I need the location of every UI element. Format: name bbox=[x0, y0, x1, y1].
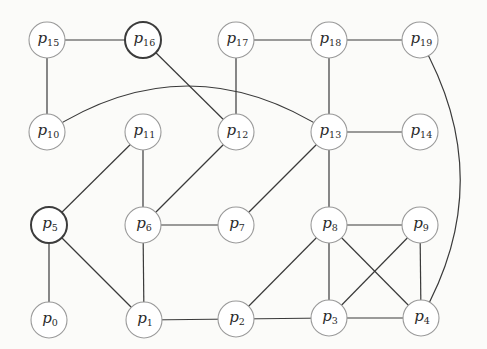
node-p7: p7 bbox=[218, 207, 254, 243]
node-p1: p1 bbox=[126, 302, 162, 338]
node-p19: p19 bbox=[402, 22, 438, 58]
node-p15: p15 bbox=[29, 22, 65, 58]
node-p4: p4 bbox=[403, 300, 439, 336]
node-p12: p12 bbox=[218, 114, 254, 150]
node-p14: p14 bbox=[402, 114, 438, 150]
edge-p12-p6 bbox=[143, 132, 236, 225]
edge-p19-p4 bbox=[420, 40, 460, 318]
node-p18: p18 bbox=[311, 22, 347, 58]
nodes-layer: p0p1p2p3p4p5p6p7p8p9p10p11p12p13p14p15p1… bbox=[29, 22, 439, 338]
node-p8: p8 bbox=[311, 207, 347, 243]
node-p9: p9 bbox=[402, 207, 438, 243]
node-p17: p17 bbox=[218, 22, 254, 58]
node-p13: p13 bbox=[311, 114, 347, 150]
node-p5: p5 bbox=[31, 207, 67, 243]
node-p16: p16 bbox=[125, 22, 161, 58]
edge-p5-p1 bbox=[49, 225, 144, 320]
edge-p10-p13 bbox=[47, 86, 329, 132]
node-p3: p3 bbox=[311, 300, 347, 336]
edge-p8-p2 bbox=[236, 225, 329, 319]
graph-diagram: p0p1p2p3p4p5p6p7p8p9p10p11p12p13p14p15p1… bbox=[0, 0, 487, 349]
node-p2: p2 bbox=[218, 301, 254, 337]
node-p0: p0 bbox=[31, 302, 67, 338]
node-p10: p10 bbox=[29, 114, 65, 150]
edge-p11-p5 bbox=[49, 132, 143, 225]
node-p6: p6 bbox=[125, 207, 161, 243]
node-p11: p11 bbox=[125, 114, 161, 150]
edge-p13-p7 bbox=[236, 132, 329, 225]
edges-layer bbox=[47, 40, 460, 320]
